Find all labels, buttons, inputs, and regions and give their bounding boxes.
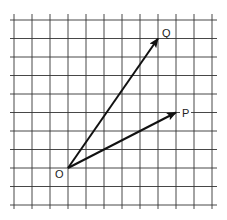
point-label-p: P	[182, 107, 189, 119]
point-label-q: Q	[162, 27, 171, 39]
vector-diagram: OPQ	[0, 0, 227, 220]
vector-oq	[68, 39, 158, 169]
point-label-o: O	[55, 168, 64, 180]
